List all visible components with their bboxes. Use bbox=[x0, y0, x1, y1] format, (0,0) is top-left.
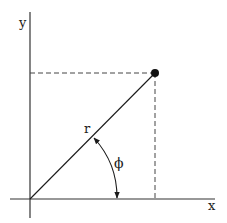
angle-label: ϕ bbox=[114, 155, 124, 171]
x-axis-label: x bbox=[208, 198, 216, 213]
y-axis-label: y bbox=[18, 15, 27, 30]
radius-line bbox=[30, 73, 155, 199]
point-marker bbox=[151, 69, 159, 77]
polar-coordinate-diagram: y x r ϕ bbox=[0, 0, 227, 223]
radius-label: r bbox=[84, 121, 91, 136]
